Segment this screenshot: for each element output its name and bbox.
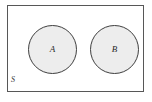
set-label-a: A [29,26,76,73]
set-circle-b: B [90,25,139,74]
universal-set-rectangle: A B [7,5,144,92]
set-circle-a: A [28,25,77,74]
venn-diagram-canvas: A B S [0,0,152,102]
set-label-b: B [91,26,138,73]
universal-set-label: S [11,76,15,84]
